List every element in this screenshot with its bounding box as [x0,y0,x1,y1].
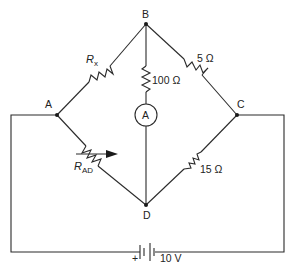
branch-c-d [146,115,237,205]
label-5-ohm: 5 Ω [197,52,214,64]
label-15-ohm: 15 Ω [200,163,223,175]
external-loop [11,115,284,252]
node-b [144,22,148,26]
battery-icon [140,243,154,261]
label-ammeter: A [142,109,149,121]
node-a [55,113,59,117]
resistor-rad [82,146,101,166]
node-label-b: B [142,8,149,20]
branch-a-d [57,115,146,205]
node-d [144,203,148,207]
node-label-a: A [45,98,52,110]
node-label-d: D [143,209,151,221]
branch-a-b [57,24,146,115]
label-10-v: 10 V [160,252,182,264]
branch-b-c [146,24,237,115]
label-rad: RAD [74,160,93,175]
node-c [235,113,239,117]
label-100-ohm: 100 Ω [152,74,180,86]
resistor-100-ohm [142,66,150,92]
resistor-15-ohm [184,152,201,169]
node-label-c: C [237,98,245,110]
circuit-diagram: B A C D Rx 5 Ω 100 Ω A RAD 15 Ω + 10 V [0,0,293,267]
resistor-rx [89,66,113,82]
label-rx: Rx [86,53,98,68]
label-battery-plus: + [132,252,138,264]
